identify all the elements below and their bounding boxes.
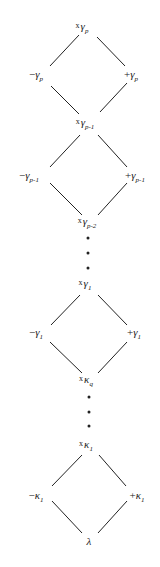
ellipsis-dot — [88, 425, 91, 428]
node-symbol: λ — [87, 535, 92, 547]
node-subscript: 1 — [40, 496, 44, 504]
ellipsis-dot — [87, 237, 90, 240]
node-minus_gamma_p-1: −γp-1 — [19, 170, 39, 184]
edge-line — [99, 455, 126, 486]
edge-line — [97, 37, 125, 66]
edge-line — [50, 135, 80, 167]
node-subscript: 1 — [138, 333, 142, 341]
node-subscript: p — [85, 27, 89, 35]
node-prefix: x — [79, 374, 83, 383]
edge-line — [100, 83, 127, 112]
node-subscript: 1 — [89, 445, 93, 453]
node-x_kappa_1: xκ1 — [79, 439, 93, 453]
node-x_gamma_p-2: xγp-2 — [78, 216, 97, 230]
node-prefix: x — [76, 21, 80, 30]
node-subscript: p-2 — [87, 222, 96, 230]
node-subscript: q — [89, 380, 93, 388]
node-prefix: x — [79, 439, 83, 448]
node-subscript: p — [40, 75, 44, 83]
node-subscript: p-1 — [136, 176, 145, 184]
node-plus_gamma_p: +γp — [124, 69, 138, 83]
node-prefix: x — [76, 117, 80, 126]
node-plus_gamma_p-1: +γp-1 — [125, 170, 145, 184]
node-subscript: 1 — [40, 333, 44, 341]
node-x_kappa_q: xκq — [79, 374, 93, 388]
node-x_gamma_1: xγ1 — [79, 278, 92, 292]
node-lambda: λ — [87, 536, 92, 547]
edge-line — [98, 342, 127, 373]
ellipsis-dot — [87, 267, 90, 270]
edge-line — [50, 183, 82, 215]
ellipsis-dot — [87, 252, 90, 255]
node-subscript: 1 — [141, 496, 145, 504]
node-minus_kappa_1: −κ1 — [29, 490, 44, 504]
ellipsis-dot — [88, 396, 91, 399]
node-x_gamma_p: xγp — [76, 21, 89, 35]
node-minus_gamma_p: −γp — [29, 69, 43, 83]
edge-line — [98, 501, 127, 533]
node-plus_gamma_1: +γ1 — [127, 327, 141, 341]
node-subscript: p-1 — [85, 123, 94, 131]
edge-line — [50, 35, 79, 66]
edge-line — [98, 295, 127, 325]
edge-line — [51, 86, 79, 114]
edge-line — [51, 295, 80, 325]
edge-line — [98, 135, 127, 167]
edge-line — [52, 455, 82, 486]
node-plus_kappa_1: +κ1 — [130, 490, 145, 504]
edge-line — [52, 501, 82, 533]
edge-line — [98, 183, 127, 215]
node-prefix: x — [79, 278, 83, 287]
node-subscript: 1 — [88, 284, 92, 292]
edge-line — [50, 342, 82, 373]
node-subscript: p — [135, 75, 139, 83]
node-prefix: x — [78, 216, 82, 225]
ellipsis-dot — [88, 411, 91, 414]
node-x_gamma_p-1: xγp-1 — [76, 117, 95, 131]
node-subscript: p-1 — [30, 176, 39, 184]
node-minus_gamma_1: −γ1 — [29, 327, 43, 341]
